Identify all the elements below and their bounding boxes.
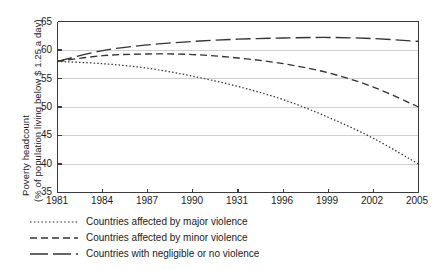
legend-swatch-dashed-icon	[28, 232, 80, 244]
legend-item: Countries affected by minor violence	[28, 230, 428, 246]
legend-item: Countries with negligible or no violence	[28, 246, 428, 262]
legend-item: Countries affected by major violence	[28, 214, 428, 230]
chart-legend: Countries affected by major violence Cou…	[28, 214, 428, 262]
legend-label: Countries with negligible or no violence	[86, 249, 259, 259]
legend-label: Countries affected by major violence	[86, 217, 248, 227]
legend-swatch-dotted-icon	[28, 216, 80, 228]
legend-label: Countries affected by minor violence	[86, 233, 248, 243]
chart-figure: Poverty headcount (% of population livin…	[0, 0, 440, 270]
legend-swatch-long-dash-icon	[28, 248, 80, 260]
